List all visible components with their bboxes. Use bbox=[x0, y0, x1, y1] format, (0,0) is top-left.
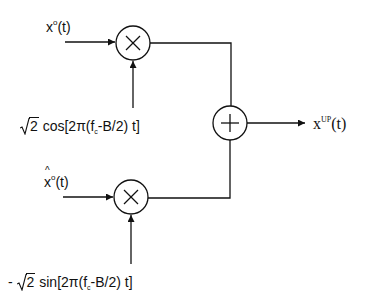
label-base: x bbox=[313, 115, 321, 132]
carrier-tail: -B/2) t] bbox=[98, 118, 140, 134]
multiply-icon bbox=[124, 190, 138, 204]
sqrt-symbol: 2 bbox=[17, 275, 36, 289]
connector-top bbox=[150, 43, 231, 106]
input-in-phase-label: xo(t) bbox=[46, 20, 71, 34]
sqrt-arg: 2 bbox=[26, 273, 36, 290]
label-sup: o bbox=[53, 18, 57, 27]
label-base-hat: x bbox=[44, 175, 51, 189]
sqrt-symbol: 2 bbox=[20, 119, 39, 133]
carrier-prefix: - bbox=[8, 274, 17, 290]
label-arg: (t) bbox=[331, 115, 346, 132]
label-arg: (t) bbox=[57, 19, 70, 35]
carrier-cos-label: 2 cos[2π(fc-B/2) t] bbox=[20, 119, 140, 133]
label-sup: UP bbox=[321, 115, 331, 124]
carrier-func: cos[2π(f bbox=[39, 118, 95, 134]
output-label: xUP(t) bbox=[313, 116, 346, 132]
carrier-tail: -B/2) t] bbox=[91, 274, 133, 290]
input-quadrature-label: xo(t) bbox=[44, 175, 69, 189]
label-arg: (t) bbox=[55, 174, 68, 190]
sqrt-arg: 2 bbox=[29, 117, 39, 134]
connector-bottom bbox=[148, 140, 230, 198]
multiply-icon bbox=[126, 36, 140, 50]
label-base: x bbox=[46, 19, 53, 35]
carrier-sub: c bbox=[94, 128, 98, 135]
block-diagram bbox=[0, 0, 367, 303]
carrier-sub: c bbox=[87, 284, 91, 291]
carrier-func: sin[2π(f bbox=[35, 274, 87, 290]
label-sup: o bbox=[51, 173, 55, 182]
plus-icon bbox=[221, 114, 239, 132]
carrier-sin-label: - 2 sin[2π(fc-B/2) t] bbox=[8, 275, 133, 289]
